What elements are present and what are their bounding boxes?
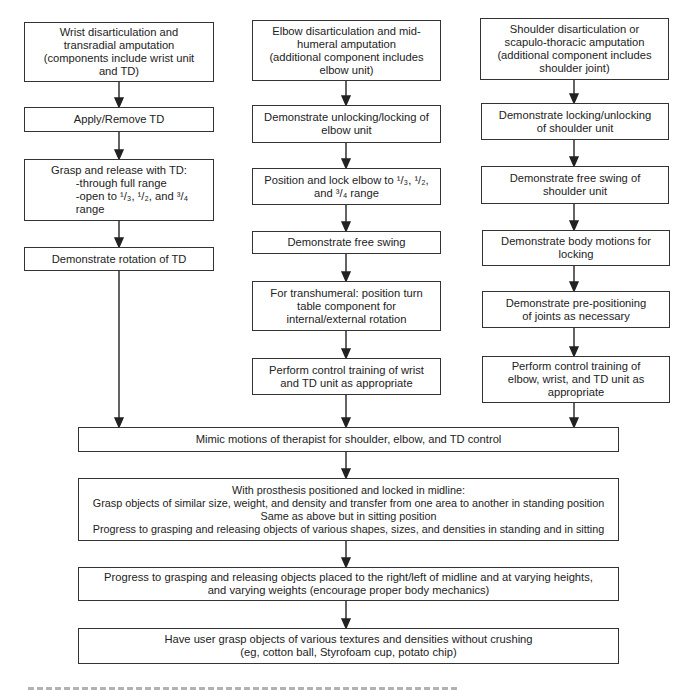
step-text: Progress to grasping and releasing objec…	[104, 571, 593, 584]
grasp-release-td-box: Grasp and release with TD: -through full…	[24, 159, 214, 221]
step-text: Progress to grasping and releasing objec…	[93, 523, 604, 536]
step-text: Have user grasp objects of various textu…	[164, 633, 532, 646]
lock-unlock-shoulder-box: Demonstrate locking/unlocking of shoulde…	[481, 103, 669, 140]
step-text: range	[50, 203, 188, 216]
elbow-midhumeral-header-box: Elbow disarticulation and mid- humeral a…	[252, 20, 441, 81]
step-text: -through full range	[50, 177, 188, 190]
apply-remove-td-box: Apply/Remove TD	[24, 107, 214, 132]
header-line: (additional component includes	[269, 51, 423, 64]
step-text: Mimic motions of therapist for shoulder,…	[196, 433, 502, 446]
step-text: of shoulder unit	[499, 122, 651, 135]
step-text: Demonstrate free swing	[287, 236, 405, 249]
step-text: Demonstrate free swing of	[510, 172, 641, 185]
header-line: elbow unit)	[269, 64, 423, 77]
textures-densities-box: Have user grasp objects of various textu…	[78, 628, 619, 664]
step-text: table component for	[270, 300, 422, 313]
step-text: Demonstrate locking/unlocking	[499, 109, 651, 122]
header-line: (additional component includes	[497, 49, 651, 62]
control-training-wrist-td-box: Perform control training of wrist and TD…	[252, 358, 441, 395]
header-line: scapulo-thoracic amputation	[497, 36, 651, 49]
step-text: Perform control training of wrist	[269, 364, 424, 377]
demonstrate-free-swing-box: Demonstrate free swing	[252, 231, 441, 254]
step-text: Grasp objects of similar size, weight, a…	[93, 497, 604, 510]
step-text: Demonstrate unlocking/locking of	[264, 111, 429, 124]
header-line: and TD)	[44, 65, 194, 78]
step-text: Same as above but in sitting position	[93, 510, 604, 523]
clipped-caption	[28, 682, 458, 690]
step-text: and ³/₄ range	[264, 187, 428, 200]
step-text: internal/external rotation	[270, 313, 422, 326]
step-text: Demonstrate pre-positioning	[506, 297, 647, 310]
step-text: -open to ¹/₃, ¹/₂, and ³/₄	[50, 190, 188, 203]
step-text: Demonstrate rotation of TD	[52, 253, 187, 266]
right-left-midline-box: Progress to grasping and releasing objec…	[78, 567, 619, 601]
step-text: elbow unit	[264, 124, 429, 137]
free-swing-shoulder-box: Demonstrate free swing of shoulder unit	[481, 166, 669, 204]
step-text: Demonstrate body motions for	[501, 235, 651, 248]
step-text: appropriate	[508, 386, 645, 399]
prosthesis-midline-grasp-box: With prosthesis positioned and locked in…	[78, 478, 619, 541]
mimic-motions-box: Mimic motions of therapist for shoulder,…	[78, 427, 619, 452]
pre-positioning-joints-box: Demonstrate pre-positioning of joints as…	[482, 291, 670, 328]
header-line: transradial amputation	[44, 39, 194, 52]
control-training-elbow-wrist-td-box: Perform control training of elbow, wrist…	[482, 356, 670, 403]
step-text: locking	[501, 248, 651, 261]
step-text: and TD unit as appropriate	[269, 377, 424, 390]
position-lock-elbow-box: Position and lock elbow to ¹/₃, ¹/₂, and…	[252, 168, 441, 205]
header-line: Wrist disarticulation and	[44, 26, 194, 39]
header-line: (components include wrist unit	[44, 52, 194, 65]
step-text: Apply/Remove TD	[74, 113, 165, 126]
step-text: For transhumeral: position turn	[270, 287, 422, 300]
step-text: and varying weights (encourage proper bo…	[104, 584, 593, 597]
unlock-lock-elbow-box: Demonstrate unlocking/locking of elbow u…	[252, 105, 441, 143]
demonstrate-rotation-td-box: Demonstrate rotation of TD	[24, 247, 214, 271]
step-text: With prosthesis positioned and locked in…	[93, 484, 604, 497]
wrist-transradial-header-box: Wrist disarticulation and transradial am…	[24, 22, 214, 82]
header-line: Shoulder disarticulation or	[497, 23, 651, 36]
header-line: Elbow disarticulation and mid-	[269, 25, 423, 38]
body-motions-locking-box: Demonstrate body motions for locking	[482, 230, 670, 266]
step-text: (eg, cotton ball, Styrofoam cup, potato …	[164, 646, 532, 659]
step-text: elbow, wrist, and TD unit as	[508, 373, 645, 386]
step-text: shoulder unit	[510, 185, 641, 198]
header-line: shoulder joint)	[497, 62, 651, 75]
header-line: humeral amputation	[269, 38, 423, 51]
shoulder-scapulothoracic-header-box: Shoulder disarticulation or scapulo-thor…	[480, 18, 669, 80]
step-text: Position and lock elbow to ¹/₃, ¹/₂,	[264, 174, 428, 187]
step-text: of joints as necessary	[506, 310, 647, 323]
step-text: Perform control training of	[508, 360, 645, 373]
transhumeral-turntable-box: For transhumeral: position turn table co…	[252, 281, 441, 331]
step-text: Grasp and release with TD:	[50, 164, 188, 177]
